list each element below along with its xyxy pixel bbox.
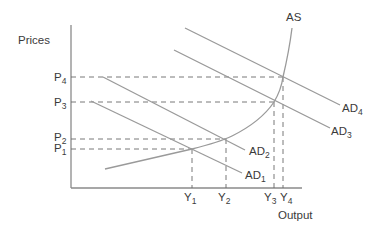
y2-label: Y2 xyxy=(218,191,231,206)
y-axis-label: Prices xyxy=(18,34,50,46)
y1-label: Y1 xyxy=(184,191,197,206)
y3-label: Y3 xyxy=(264,191,277,206)
p4-label: P4 xyxy=(54,71,67,86)
p3-label: P3 xyxy=(54,96,67,111)
ad4-label: AD4 xyxy=(342,102,363,117)
as-ad-diagram: Prices Output AS P4 P3 P2 P1 Y1 Y2 Y3 Y4… xyxy=(0,0,378,233)
x-axis-label: Output xyxy=(278,209,313,221)
ad3-label: AD3 xyxy=(331,125,352,140)
ad1-label: AD1 xyxy=(245,169,266,184)
axes xyxy=(71,25,302,188)
demand-curves xyxy=(91,28,340,173)
ad2-label: AD2 xyxy=(249,145,270,160)
as-label: AS xyxy=(286,11,302,23)
price-guides xyxy=(71,77,283,149)
y4-label: Y4 xyxy=(280,191,293,206)
